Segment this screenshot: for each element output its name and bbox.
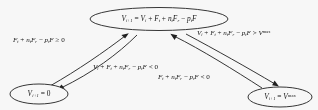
update-t3-sub: r	[177, 18, 179, 23]
max-lhs-sub: i+1	[269, 96, 276, 101]
l3-minus1: −	[184, 73, 188, 81]
update-plus1: +	[148, 14, 152, 23]
state-node-update-label: Vi+1 = Vi + Ft + ntFr − ptF	[121, 15, 196, 24]
l0-t3-var: F	[49, 36, 53, 44]
l0-plus1: +	[20, 36, 24, 44]
l3-t1-sub: t	[162, 76, 163, 81]
l0-t1-sub: t	[17, 39, 18, 44]
l2-t3-var: F	[143, 63, 147, 71]
zero-lhs-sub: i+1	[32, 93, 39, 98]
update-eq: =	[134, 14, 138, 23]
edge-label-max-to-update: Ft + ntFr − ptF < 0	[158, 74, 210, 82]
edge-label-update-to-max: Vi + Ft + ntFr − ptF > Vmax	[197, 30, 270, 38]
update-lhs-sub: i+1	[126, 18, 133, 23]
l2-rel: <	[149, 63, 153, 71]
l0-value: 0	[61, 36, 65, 44]
l3-t2-sub: r	[180, 76, 182, 81]
update-t2-sub: t	[159, 18, 160, 23]
update-t4-var: F	[192, 14, 197, 23]
arrowhead-update-to-max	[272, 80, 279, 86]
edge-label-update-to-zero: Vi + Ft + ntFr − ptF < 0	[93, 64, 158, 72]
l1-t1-sub: t	[215, 32, 216, 37]
update-plus2: +	[162, 14, 166, 23]
zero-eq: =	[41, 89, 45, 98]
zero-value: 0	[47, 89, 51, 98]
l1-plus0: +	[204, 29, 208, 37]
l1-t0-sub: i	[201, 32, 202, 37]
state-node-max-label: Vi+1 = Vmax	[264, 93, 295, 102]
arrowhead-max-to-update	[170, 34, 177, 40]
update-minus1: −	[181, 14, 185, 23]
l1-minus1: −	[236, 29, 240, 37]
l0-rel: ≥	[55, 36, 59, 44]
max-eq: =	[277, 92, 281, 101]
l3-rel: <	[200, 73, 204, 81]
l2-plus0: +	[100, 63, 104, 71]
edge-update-to-zero	[61, 35, 137, 88]
l2-plus1: +	[114, 63, 118, 71]
diagram-canvas: Vi+1 = Vi + Ft + ntFr − ptF Vi+1 = 0 Vi+…	[0, 0, 318, 110]
l1-t3-var: F	[247, 29, 251, 37]
l3-t3-var: F	[194, 73, 198, 81]
l2-minus1: −	[132, 63, 136, 71]
l1-t2-sub: r	[232, 32, 234, 37]
l2-t0-sub: i	[97, 66, 98, 71]
l2-t1-sub: t	[111, 66, 112, 71]
l3-value: 0	[206, 73, 210, 81]
l2-value: 0	[154, 63, 158, 71]
l1-rel: >	[253, 29, 257, 37]
edge-label-reset-to-update: Ft + ntFr − ptF ≥ 0	[13, 37, 65, 45]
l3-plus1: +	[165, 73, 169, 81]
state-node-zero-label: Vi+1 = 0	[28, 90, 51, 99]
max-rhs-sup: max	[288, 93, 296, 98]
update-t1-sub: i	[145, 18, 146, 23]
l1-rhs-sup: max	[263, 29, 271, 34]
l0-t2-sub: r	[35, 39, 37, 44]
l1-plus1: +	[218, 29, 222, 37]
l0-minus1: −	[39, 36, 43, 44]
l2-t2-sub: r	[128, 66, 130, 71]
